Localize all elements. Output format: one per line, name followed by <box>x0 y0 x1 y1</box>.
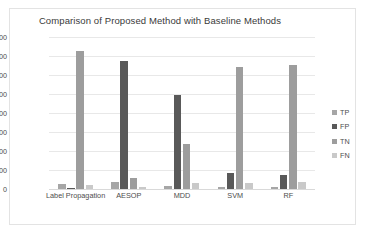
bar-tp[interactable] <box>58 184 66 189</box>
x-axis-tick-label: RF <box>253 191 323 201</box>
legend-label: TN <box>340 137 350 146</box>
chart-title: Comparison of Proposed Method with Basel… <box>10 15 310 26</box>
y-axis-tick-label: 0 <box>0 185 7 194</box>
legend-swatch-icon <box>332 110 337 115</box>
plot-area: 40003500300025002000150010005000Label Pr… <box>49 37 315 189</box>
bar-tp[interactable] <box>271 187 279 189</box>
legend-item-fp[interactable]: FP <box>332 120 350 135</box>
legend-swatch-icon <box>332 153 337 158</box>
legend-label: TP <box>340 108 349 117</box>
bar-fp[interactable] <box>280 175 288 189</box>
bar-fn[interactable] <box>192 183 200 189</box>
bar-tp[interactable] <box>111 182 119 189</box>
bar-group <box>262 37 315 189</box>
y-axis-tick-label: 2500 <box>0 90 7 99</box>
bar-tp[interactable] <box>164 186 172 189</box>
bar-group <box>49 37 102 189</box>
y-axis-tick-label: 3000 <box>0 71 7 80</box>
bar-tn[interactable] <box>130 178 138 189</box>
y-axis-tick-label: 3500 <box>0 52 7 61</box>
bar-fp[interactable] <box>227 173 235 189</box>
chart-legend: TPFPTNFN <box>332 105 350 163</box>
bar-tn[interactable] <box>76 51 84 189</box>
bar-fn[interactable] <box>139 187 147 189</box>
bar-fp[interactable] <box>174 95 182 189</box>
bar-fn[interactable] <box>86 185 94 189</box>
y-axis-tick-label: 500 <box>0 166 7 175</box>
bar-group <box>155 37 208 189</box>
legend-item-fn[interactable]: FN <box>332 149 350 164</box>
bar-fp[interactable] <box>67 188 75 189</box>
legend-label: FP <box>340 122 349 131</box>
bar-tn[interactable] <box>289 65 297 189</box>
bar-group <box>102 37 155 189</box>
y-axis-tick-label: 4000 <box>0 33 7 42</box>
bar-tn[interactable] <box>236 67 244 189</box>
legend-item-tn[interactable]: TN <box>332 134 350 149</box>
bar-group <box>209 37 262 189</box>
legend-swatch-icon <box>332 139 337 144</box>
legend-item-tp[interactable]: TP <box>332 105 350 120</box>
bar-fn[interactable] <box>245 183 253 189</box>
bar-tn[interactable] <box>183 144 191 189</box>
chart-container: Comparison of Proposed Method with Basel… <box>9 8 356 225</box>
legend-label: FN <box>340 151 350 160</box>
gridline <box>49 189 315 190</box>
legend-swatch-icon <box>332 124 337 129</box>
bar-fn[interactable] <box>298 182 306 189</box>
y-axis-tick-label: 1000 <box>0 147 7 156</box>
bar-tp[interactable] <box>218 187 226 189</box>
y-axis-tick-label: 1500 <box>0 128 7 137</box>
y-axis-tick-label: 2000 <box>0 109 7 118</box>
bar-fp[interactable] <box>120 61 128 189</box>
